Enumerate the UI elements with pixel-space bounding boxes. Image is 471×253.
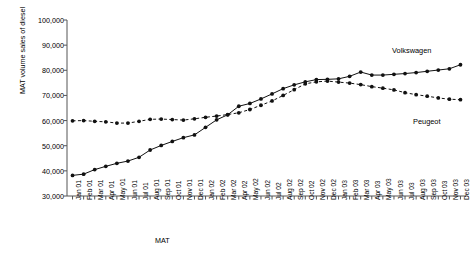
series-line-volkswagen: [73, 65, 461, 176]
x-tick-label: Jan 02: [208, 180, 215, 200]
x-tick-label: Aug 03: [419, 179, 426, 200]
data-point: [359, 83, 363, 87]
data-point: [71, 119, 75, 123]
data-point: [281, 87, 285, 91]
series-line-peugeot: [73, 81, 461, 123]
data-point: [204, 115, 208, 119]
data-point: [326, 79, 330, 83]
data-point: [159, 117, 163, 121]
data-point: [348, 81, 352, 85]
data-point: [159, 144, 163, 148]
x-tick-label: Nov 03: [452, 179, 459, 200]
data-point: [226, 113, 230, 117]
data-point: [181, 118, 185, 122]
x-tick-label: Apr 01: [108, 181, 115, 200]
x-tick-label: Feb 01: [86, 179, 93, 200]
data-point: [93, 168, 97, 172]
data-point: [436, 68, 440, 72]
data-point: [204, 125, 208, 129]
x-tick-label: Nov 02: [319, 179, 326, 200]
x-tick-label: Sep 03: [430, 179, 437, 200]
x-tick-label: May 01: [119, 178, 126, 200]
plot-area: [0, 0, 471, 253]
data-point: [82, 172, 86, 176]
x-tick-label: Dec 02: [330, 179, 337, 200]
x-tick-label: Sep 01: [164, 179, 171, 200]
x-tick-label: Nov 01: [186, 179, 193, 200]
data-point: [248, 102, 252, 106]
x-tick-label: Oct 02: [308, 181, 315, 200]
x-tick-label: Dec 03: [463, 179, 470, 200]
x-tick-label: May 02: [252, 178, 259, 200]
data-point: [126, 121, 130, 125]
x-tick-label: Feb 03: [352, 179, 359, 200]
x-tick-label: Jan 01: [75, 180, 82, 200]
data-point: [270, 99, 274, 103]
data-point: [137, 119, 141, 123]
data-point: [104, 120, 108, 124]
x-tick-label: Sep 02: [297, 179, 304, 200]
data-point: [414, 93, 418, 97]
x-tick-label: Jul 01: [142, 182, 149, 200]
data-point: [170, 140, 174, 144]
data-point: [104, 164, 108, 168]
x-tick-label: Dec 01: [197, 179, 204, 200]
data-point: [403, 91, 407, 95]
x-tick-label: Mar 03: [363, 179, 370, 200]
data-point: [337, 77, 341, 81]
data-point: [93, 119, 97, 123]
x-tick-label: Aug 02: [286, 179, 293, 200]
x-tick-label: Jul 02: [275, 182, 282, 200]
x-tick-label: Feb 02: [219, 179, 226, 200]
data-point: [392, 72, 396, 76]
data-point: [259, 103, 263, 107]
data-point: [303, 82, 307, 86]
series-label-volkswagen: Volkswagen: [392, 46, 431, 55]
data-point: [337, 80, 341, 84]
x-tick-label: Jan 03: [341, 180, 348, 200]
series-label-peugeot: Peugeot: [413, 117, 441, 126]
x-tick-label: Oct 01: [175, 181, 182, 200]
data-point: [459, 98, 463, 102]
x-tick-label: Jun 03: [397, 180, 404, 200]
x-tick-label: Apr 02: [241, 181, 248, 200]
x-tick-label: Jun 02: [264, 180, 271, 200]
data-point: [270, 92, 274, 96]
data-point: [148, 117, 152, 121]
data-point: [370, 73, 374, 77]
x-tick-label: Jun 01: [131, 180, 138, 200]
data-point: [292, 88, 296, 92]
data-point: [115, 161, 119, 165]
data-point: [447, 97, 451, 101]
data-point: [237, 104, 241, 108]
x-tick-label: Jul 03: [408, 182, 415, 200]
data-point: [381, 86, 385, 90]
data-point: [447, 67, 451, 71]
data-point: [403, 72, 407, 76]
x-tick-label: May 03: [385, 178, 392, 200]
data-point: [82, 119, 86, 123]
data-point: [170, 118, 174, 122]
data-point: [181, 136, 185, 140]
x-tick-label: Mar 01: [97, 179, 104, 200]
data-point: [425, 69, 429, 73]
data-point: [425, 94, 429, 98]
data-point: [193, 133, 197, 137]
data-point: [359, 70, 363, 74]
data-point: [215, 114, 219, 118]
data-point: [436, 96, 440, 100]
data-point: [392, 88, 396, 92]
data-point: [126, 159, 130, 163]
data-point: [193, 117, 197, 121]
chart-container: MAT volume sales of diesel 30,00040,0005…: [0, 0, 471, 253]
x-tick-label: Apr 03: [374, 181, 381, 200]
data-point: [248, 108, 252, 112]
data-point: [215, 118, 219, 122]
data-point: [259, 97, 263, 101]
data-point: [281, 94, 285, 98]
data-point: [414, 71, 418, 75]
data-point: [237, 111, 241, 115]
data-point: [348, 74, 352, 78]
data-point: [115, 121, 119, 125]
data-point: [148, 148, 152, 152]
